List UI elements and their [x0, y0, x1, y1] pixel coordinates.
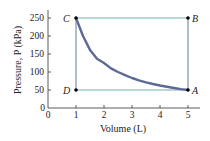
x-tick-3: 3	[130, 110, 135, 120]
point-B	[186, 16, 190, 20]
x-ticks	[76, 105, 188, 108]
point-C	[74, 16, 78, 20]
y-ticks	[48, 18, 51, 90]
pv-diagram: 250 200 150 100 50 0 0 1 2 3 4 5 Volume …	[0, 0, 210, 141]
x-tick-0: 0	[46, 110, 51, 120]
y-axis-label: Pressure, P (kPa)	[12, 26, 24, 94]
point-A	[186, 88, 190, 92]
label-B: B	[192, 13, 198, 24]
y-tick-200: 200	[30, 31, 45, 41]
label-D: D	[62, 85, 71, 96]
point-D	[74, 88, 78, 92]
x-tick-5: 5	[186, 110, 191, 120]
x-tick-2: 2	[102, 110, 107, 120]
x-tick-1: 1	[74, 110, 79, 120]
x-axis-label: Volume (L)	[100, 123, 146, 135]
x-tick-4: 4	[158, 110, 163, 120]
y-tick-0: 0	[40, 103, 45, 113]
label-A: A	[191, 85, 199, 96]
label-C: C	[63, 13, 70, 24]
isotherm-curve-CA	[76, 18, 188, 90]
x-tick-labels: 0 1 2 3 4 5	[46, 110, 191, 120]
y-tick-150: 150	[30, 49, 45, 59]
y-tick-50: 50	[35, 85, 45, 95]
y-tick-labels: 250 200 150 100 50 0	[30, 13, 46, 113]
y-tick-100: 100	[30, 67, 45, 77]
y-tick-250: 250	[30, 13, 45, 23]
